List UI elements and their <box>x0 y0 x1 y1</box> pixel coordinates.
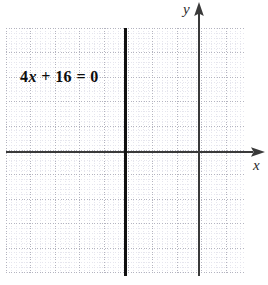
equation-equals-sign: = <box>76 68 86 85</box>
equation-constant: 16 <box>55 68 72 85</box>
axes-layer <box>0 0 268 285</box>
x-axis-label: x <box>253 158 260 173</box>
equation-operator: + <box>41 68 51 85</box>
x-axis-arrowhead <box>251 147 265 157</box>
equation-variable: x <box>28 68 36 85</box>
equation-right-side: 0 <box>90 68 98 85</box>
graph-figure: y x 4x + 16 = 0 <box>0 0 268 285</box>
equation-annotation: 4x + 16 = 0 <box>20 68 99 86</box>
y-axis-label: y <box>183 2 190 17</box>
